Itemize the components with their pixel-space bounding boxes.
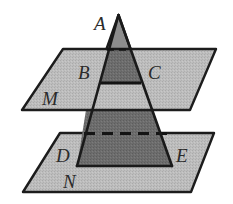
geometry-figure: [0, 0, 233, 204]
geometry-diagram-canvas: A B C M D E N: [0, 0, 233, 204]
label-N: N: [63, 172, 76, 191]
label-B: B: [78, 63, 90, 82]
label-D: D: [56, 146, 70, 165]
label-M: M: [42, 89, 58, 108]
label-C: C: [148, 63, 161, 82]
label-A: A: [94, 14, 106, 33]
label-E: E: [176, 146, 188, 165]
